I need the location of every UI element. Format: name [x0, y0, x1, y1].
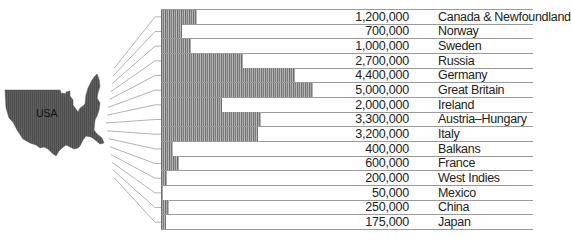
value-label: 700,000	[365, 24, 409, 38]
bar	[161, 215, 166, 229]
category-label: Norway	[438, 24, 479, 38]
value-label: 600,000	[365, 156, 409, 170]
row-rule	[161, 229, 533, 230]
bar-row: 2,000,000Ireland	[161, 98, 533, 112]
bar	[161, 39, 191, 53]
category-label: Mexico	[438, 186, 476, 200]
value-label: 3,300,000	[355, 112, 409, 126]
bar	[161, 127, 258, 141]
category-label: Russia	[438, 54, 474, 68]
category-label: France	[438, 156, 475, 170]
bar-row: 50,000Mexico	[161, 186, 533, 200]
bar	[161, 54, 243, 68]
value-label: 1,000,000	[355, 39, 409, 53]
bar	[161, 24, 182, 38]
bar	[161, 68, 295, 82]
bar-row: 250,000China	[161, 200, 533, 214]
category-label: Great Britain	[438, 83, 504, 97]
bar	[161, 200, 169, 214]
value-label: 3,200,000	[355, 127, 409, 141]
value-label: 175,000	[365, 215, 409, 229]
bar-row: 3,200,000Italy	[161, 127, 533, 141]
bar	[161, 142, 173, 156]
category-label: Ireland	[438, 98, 474, 112]
bar-row: 1,200,000Canada & Newfoundland	[161, 10, 533, 24]
value-label: 50,000	[372, 186, 409, 200]
value-label: 200,000	[365, 171, 409, 185]
value-label: 5,000,000	[355, 83, 409, 97]
bar-row: 175,000Japan	[161, 215, 533, 229]
bar-row: 1,000,000Sweden	[161, 39, 533, 53]
value-label: 2,700,000	[355, 54, 409, 68]
bar-row: 2,700,000Russia	[161, 54, 533, 68]
category-label: West Indies	[438, 171, 500, 185]
bar-row: 600,000France	[161, 156, 533, 170]
bar-row: 4,400,000Germany	[161, 68, 533, 82]
bar-row: 200,000West Indies	[161, 171, 533, 185]
bar	[161, 83, 313, 97]
category-label: China	[438, 200, 469, 214]
value-label: 2,000,000	[355, 98, 409, 112]
category-label: Balkans	[438, 142, 480, 156]
category-label: Canada & Newfoundland	[438, 10, 571, 24]
bar-row: 700,000Norway	[161, 24, 533, 38]
category-label: Austria–Hungary	[438, 112, 527, 126]
bar-row: 5,000,000Great Britain	[161, 83, 533, 97]
bar	[161, 98, 222, 112]
value-label: 400,000	[365, 142, 409, 156]
value-label: 4,400,000	[355, 68, 409, 82]
bar-row: 400,000Balkans	[161, 142, 533, 156]
bar	[161, 112, 261, 126]
bar	[161, 171, 167, 185]
category-label: Sweden	[438, 39, 481, 53]
bar	[161, 156, 179, 170]
value-label: 250,000	[365, 200, 409, 214]
bar	[161, 186, 163, 200]
value-label: 1,200,000	[355, 10, 409, 24]
bar-row: 3,300,000Austria–Hungary	[161, 112, 533, 126]
category-label: Germany	[438, 68, 487, 82]
category-label: Italy	[438, 127, 459, 141]
category-label: Japan	[438, 215, 471, 229]
bar	[161, 10, 197, 24]
